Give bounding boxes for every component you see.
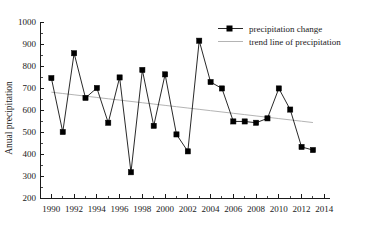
- x-axis-tick-labels: 1990199219941996199820002002200420062008…: [42, 204, 333, 214]
- x-tick-label: 1994: [88, 204, 107, 214]
- legend-entry-trend-line: trend line of precipitation: [218, 37, 341, 47]
- y-tick-label: 700: [23, 83, 37, 93]
- precipitation-change-markers: [49, 38, 316, 175]
- y-tick-label: 1000: [18, 17, 37, 27]
- x-tick-label: 1998: [133, 204, 152, 214]
- y-tick-label: 300: [23, 171, 37, 181]
- x-tick-label: 2002: [179, 204, 197, 214]
- legend-entry-precipitation-change: precipitation change: [218, 24, 322, 34]
- axis-frame: [40, 22, 330, 198]
- data-point-marker: [276, 86, 281, 91]
- data-point-marker: [83, 95, 88, 100]
- data-point-marker: [60, 129, 65, 134]
- data-point-marker: [128, 170, 133, 175]
- data-point-marker: [253, 120, 258, 125]
- data-point-marker: [231, 119, 236, 124]
- y-axis-title: Anual precipitation: [4, 81, 14, 155]
- x-tick-label: 2008: [247, 204, 266, 214]
- y-axis-tick-labels: 2003004005006007008009001000: [18, 17, 37, 203]
- data-point-marker: [242, 119, 247, 124]
- data-point-marker: [219, 86, 224, 91]
- chart-legend: precipitation change trend line of preci…: [218, 24, 341, 47]
- x-axis-ticks: [51, 194, 324, 198]
- x-tick-label: 1990: [42, 204, 61, 214]
- data-point-marker: [288, 107, 293, 112]
- x-tick-label: 1992: [65, 204, 83, 214]
- data-point-marker: [185, 149, 190, 154]
- legend-marker-precipitation-change: [227, 26, 233, 32]
- x-tick-label: 2010: [270, 204, 289, 214]
- data-point-marker: [106, 120, 111, 125]
- x-tick-label: 1996: [111, 204, 130, 214]
- x-tick-label: 2004: [202, 204, 221, 214]
- data-point-marker: [140, 67, 145, 72]
- y-tick-label: 400: [23, 149, 37, 159]
- data-point-marker: [151, 123, 156, 128]
- data-point-marker: [117, 75, 122, 80]
- y-tick-label: 600: [23, 105, 37, 115]
- data-point-marker: [265, 116, 270, 121]
- precipitation-change-series: [51, 41, 313, 173]
- data-point-marker: [310, 147, 315, 152]
- precipitation-line-chart: 2003004005006007008009001000 19901992199…: [0, 0, 365, 239]
- x-tick-label: 2012: [293, 204, 311, 214]
- data-point-marker: [72, 51, 77, 56]
- x-tick-label: 2006: [224, 204, 243, 214]
- data-point-marker: [197, 38, 202, 43]
- y-axis-title-text: Anual precipitation: [4, 81, 14, 155]
- y-axis-ticks: [40, 22, 44, 198]
- data-point-marker: [94, 85, 99, 90]
- x-tick-label: 2000: [156, 204, 175, 214]
- data-point-marker: [299, 144, 304, 149]
- y-tick-label: 900: [23, 39, 37, 49]
- x-tick-label: 2014: [315, 204, 334, 214]
- data-point-marker: [174, 132, 179, 137]
- legend-label-trend-line: trend line of precipitation: [249, 37, 341, 47]
- data-point-marker: [163, 72, 168, 77]
- y-tick-label: 800: [23, 61, 37, 71]
- y-tick-label: 200: [23, 193, 37, 203]
- data-point-marker: [49, 76, 54, 81]
- trend-line-series: [51, 92, 313, 122]
- data-point-marker: [208, 79, 213, 84]
- chart-figure: 2003004005006007008009001000 19901992199…: [0, 0, 365, 239]
- y-tick-label: 500: [23, 127, 37, 137]
- legend-label-precipitation-change: precipitation change: [249, 24, 322, 34]
